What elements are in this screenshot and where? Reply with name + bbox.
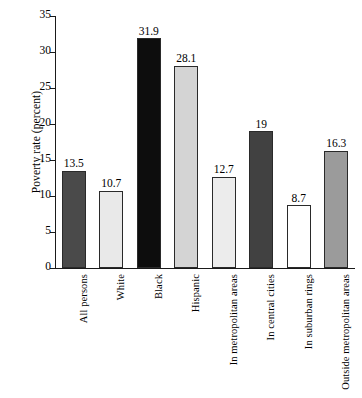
y-axis-line — [55, 16, 56, 268]
y-tick-label: 0 — [27, 260, 51, 272]
bar-value-label: 19 — [256, 119, 268, 131]
x-axis-label: Black — [153, 274, 164, 299]
bar: 28.1 — [174, 66, 198, 268]
bar-value-label: 13.5 — [64, 158, 84, 170]
bar-value-label: 10.7 — [101, 178, 121, 190]
bar-value-label: 28.1 — [176, 53, 196, 65]
y-tick-label: 25 — [27, 80, 51, 92]
y-axis-title: Poverty rate (percent) — [30, 42, 42, 242]
y-tick-label: 20 — [27, 116, 51, 128]
x-axis-label: In central cities — [265, 274, 276, 340]
y-tick-label: 5 — [27, 224, 51, 236]
bar-value-label: 12.7 — [214, 164, 234, 176]
bar: 16.3 — [324, 151, 348, 268]
x-axis-label: All persons — [78, 274, 89, 323]
plot-area: 05101520253035 13.510.731.928.112.7198.7… — [55, 16, 355, 268]
bar: 12.7 — [212, 177, 236, 268]
bar: 13.5 — [62, 171, 86, 268]
y-tick-label: 10 — [27, 188, 51, 200]
poverty-rate-bar-chart: Poverty rate (percent) 05101520253035 13… — [0, 0, 362, 398]
x-axis-label: In suburban rings — [303, 274, 314, 349]
x-axis-label: White — [115, 274, 126, 300]
bar: 8.7 — [287, 205, 311, 268]
bar: 19 — [249, 131, 273, 268]
x-axis-line — [55, 268, 355, 269]
y-tick-label: 35 — [27, 8, 51, 20]
bar: 31.9 — [137, 38, 161, 268]
x-axis-label: Outside metropolitan areas — [340, 274, 351, 390]
bar-value-label: 16.3 — [326, 138, 346, 150]
x-axis-label: Hispanic — [190, 274, 201, 312]
y-tick-label: 15 — [27, 152, 51, 164]
bar: 10.7 — [99, 191, 123, 268]
x-axis-label: In metropolitan areas — [228, 274, 239, 365]
bar-value-label: 8.7 — [292, 193, 306, 205]
y-tick-label: 30 — [27, 44, 51, 56]
bar-value-label: 31.9 — [139, 26, 159, 38]
